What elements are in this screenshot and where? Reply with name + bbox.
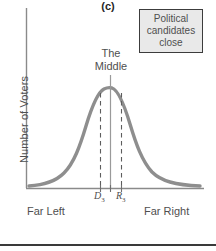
y-axis-label: Number of Voters [18, 76, 30, 163]
d3-tick-label: D3 [94, 190, 105, 204]
r3-tick-subscript: 3 [122, 196, 126, 204]
x-axis-label-far-right: Far Right [144, 205, 189, 217]
legend-line-2: candidates [147, 25, 195, 37]
middle-annotation: The Middle [86, 47, 136, 73]
bottom-divider [0, 244, 216, 246]
legend-line-3: close [159, 37, 182, 49]
middle-annotation-line1: The [86, 47, 136, 60]
voter-distribution-curve [29, 88, 200, 186]
r3-tick-label: R3 [116, 190, 126, 204]
middle-annotation-line2: Middle [86, 60, 136, 73]
figure-panel-c: Number of Voters The Middle D3 R3 Far Le… [0, 0, 216, 251]
legend-line-1: Political [154, 13, 188, 25]
legend-box: Political candidates close [139, 9, 203, 53]
d3-tick-subscript: 3 [101, 196, 105, 204]
x-axis-label-far-left: Far Left [27, 205, 65, 217]
